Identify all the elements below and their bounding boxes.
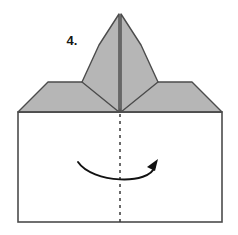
step-number-label: 4. (67, 33, 78, 48)
origami-diagram: 4. (0, 0, 238, 235)
origami-figure: 4. (0, 0, 238, 235)
